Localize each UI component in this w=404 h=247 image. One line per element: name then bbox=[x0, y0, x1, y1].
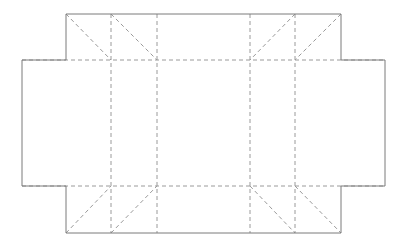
diagonal-fold-top-left-inner bbox=[111, 14, 157, 60]
fold-lines bbox=[22, 14, 385, 233]
diagonal-fold-bottom-left-inner bbox=[111, 186, 157, 233]
cut-outline bbox=[22, 14, 385, 233]
corner-diagonal-folds bbox=[66, 14, 341, 233]
diagonal-fold-bottom-left-outer bbox=[66, 186, 111, 233]
diagonal-fold-top-right-outer bbox=[295, 14, 341, 60]
diagonal-fold-top-right-inner bbox=[250, 14, 295, 60]
diagonal-fold-bottom-right-inner bbox=[250, 186, 295, 233]
diagonal-fold-bottom-right-outer bbox=[295, 186, 341, 233]
diagonal-fold-top-left-outer bbox=[66, 14, 111, 60]
box-dieline-diagram bbox=[0, 0, 404, 247]
